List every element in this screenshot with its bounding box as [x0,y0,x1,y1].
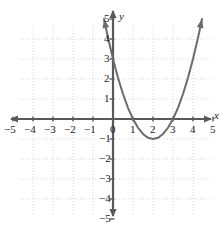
y-tick-label--4: −4 [99,193,111,204]
y-tick-label--5: −5 [99,213,111,224]
x-tick-label-5: 5 [210,124,216,135]
y-tick-label--1: −1 [99,133,111,144]
y-tick-label--2: −2 [99,153,111,164]
x-tick-label-0: 0 [110,124,116,135]
x-tick-label-2: 2 [150,124,156,135]
x-tick-label-4: 4 [190,124,196,135]
y-tick-label--3: −3 [99,173,111,184]
x-tick-label--3: −3 [44,124,56,135]
grid-lines [20,27,210,215]
x-tick-label--4: −4 [24,124,36,135]
x-tick-label--1: −1 [84,124,96,135]
graph-figure: −5−4−3−2−1012345−5−4−3−2−112345 x y [0,0,223,227]
x-tick-label-1: 1 [130,124,136,135]
x-tick-label--5: −5 [4,124,16,135]
x-tick-label-3: 3 [170,124,176,135]
axes [10,10,212,217]
y-tick-label-5: 5 [104,13,110,24]
y-tick-label-3: 3 [104,53,110,64]
y-tick-label-2: 2 [104,73,110,84]
y-axis-label: y [119,11,124,22]
y-tick-label-4: 4 [104,33,110,44]
x-axis-label: x [214,110,219,121]
coordinate-plane [0,0,223,227]
x-tick-label--2: −2 [64,124,76,135]
y-tick-label-1: 1 [104,93,110,104]
